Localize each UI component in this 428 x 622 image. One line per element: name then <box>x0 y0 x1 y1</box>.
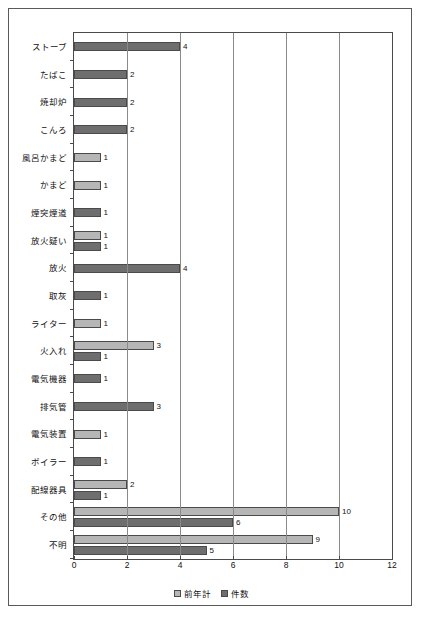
legend-label: 件数 <box>231 587 249 599</box>
bar-value-label: 3 <box>157 402 161 411</box>
bar-rect <box>74 231 101 240</box>
x-tick-label-2: 2 <box>125 560 130 570</box>
bar-rect <box>74 242 101 251</box>
bar-value-label: 1 <box>104 491 108 500</box>
category-label-12: 電気機器 <box>9 364 71 392</box>
plot-area: 4222111114113113112110695 <box>73 32 393 560</box>
bar-value-label: 1 <box>104 291 108 300</box>
chart-frame: ストーブたばこ焼却炉こんろ風呂かまどかまど煙突煙道放火疑い放火取灰ライター火入れ… <box>8 8 412 606</box>
bar-rect <box>74 518 233 527</box>
gridline-4 <box>180 33 181 559</box>
category-label-6: 煙突煙道 <box>9 198 71 226</box>
bar-rect <box>74 457 101 466</box>
bar-value-label: 1 <box>104 352 108 361</box>
category-label-17: その他 <box>9 502 71 530</box>
x-tick-label-6: 6 <box>231 560 236 570</box>
category-label-18: 不明 <box>9 530 71 558</box>
bar-value-label: 1 <box>104 208 108 217</box>
bar-rect <box>74 70 127 79</box>
legend-label: 前年計 <box>184 587 211 599</box>
bar-value-label: 2 <box>130 480 134 489</box>
bar-rect <box>74 491 101 500</box>
x-axis: 024681012 <box>73 560 393 580</box>
bar-rect <box>74 291 101 300</box>
bar-chart: ストーブたばこ焼却炉こんろ風呂かまどかまど煙突煙道放火疑い放火取灰ライター火入れ… <box>9 9 413 607</box>
gridline-8 <box>286 33 287 559</box>
bar-rect <box>74 374 101 383</box>
gridline-2 <box>127 33 128 559</box>
bar-value-label: 1 <box>104 242 108 251</box>
bar-rect <box>74 341 154 350</box>
category-label-0: ストーブ <box>9 32 71 60</box>
category-label-5: かまど <box>9 170 71 198</box>
bar-value-label: 4 <box>183 264 187 273</box>
bar-rect <box>74 153 101 162</box>
x-tick-label-8: 8 <box>284 560 289 570</box>
bar-value-label: 1 <box>104 231 108 240</box>
bar-value-label: 2 <box>130 70 134 79</box>
bar-value-label: 3 <box>157 341 161 350</box>
legend-swatch-icon <box>174 590 181 597</box>
category-label-2: 焼却炉 <box>9 87 71 115</box>
bar-value-label: 1 <box>104 457 108 466</box>
bar-value-label: 1 <box>104 319 108 328</box>
category-label-14: 電気装置 <box>9 419 71 447</box>
bar-rect <box>74 352 101 361</box>
bar-value-label: 6 <box>236 518 240 527</box>
bar-value-label: 1 <box>104 181 108 190</box>
bar-value-label: 2 <box>130 98 134 107</box>
legend-swatch-icon <box>221 590 228 597</box>
category-axis-labels: ストーブたばこ焼却炉こんろ風呂かまどかまど煙突煙道放火疑い放火取灰ライター火入れ… <box>9 32 71 560</box>
bar-value-label: 2 <box>130 125 134 134</box>
bar-rect <box>74 430 101 439</box>
bar-rect <box>74 535 313 544</box>
x-tick-label-4: 4 <box>178 560 183 570</box>
bar-value-label: 1 <box>104 374 108 383</box>
category-label-10: ライター <box>9 309 71 337</box>
category-label-15: ボイラー <box>9 447 71 475</box>
x-tick-label-0: 0 <box>72 560 77 570</box>
category-label-13: 排気管 <box>9 392 71 420</box>
category-label-16: 配線器具 <box>9 475 71 503</box>
category-label-11: 火入れ <box>9 336 71 364</box>
category-label-8: 放火 <box>9 253 71 281</box>
bar-rect <box>74 208 101 217</box>
category-label-4: 風呂かまど <box>9 143 71 171</box>
bar-rect <box>74 181 101 190</box>
x-tick-label-12: 12 <box>387 560 396 570</box>
bar-rect <box>74 507 339 516</box>
category-label-3: こんろ <box>9 115 71 143</box>
bar-value-label: 4 <box>183 42 187 51</box>
bar-value-label: 9 <box>316 535 320 544</box>
bar-rect <box>74 402 154 411</box>
bar-value-label: 1 <box>104 430 108 439</box>
chart-legend: 前年計件数 <box>9 587 413 599</box>
gridline-6 <box>233 33 234 559</box>
bar-rect <box>74 480 127 489</box>
bar-value-label: 10 <box>342 507 351 516</box>
category-label-1: たばこ <box>9 60 71 88</box>
x-tick-label-10: 10 <box>334 560 343 570</box>
bar-rect <box>74 546 207 555</box>
category-label-9: 取灰 <box>9 281 71 309</box>
bar-rect <box>74 98 127 107</box>
bar-value-label: 1 <box>104 153 108 162</box>
bar-rect <box>74 319 101 328</box>
gridline-10 <box>339 33 340 559</box>
bar-value-label: 5 <box>210 546 214 555</box>
legend-item-0[interactable]: 前年計 <box>174 587 211 599</box>
bar-rect <box>74 125 127 134</box>
category-label-7: 放火疑い <box>9 226 71 254</box>
legend-item-1[interactable]: 件数 <box>221 587 249 599</box>
